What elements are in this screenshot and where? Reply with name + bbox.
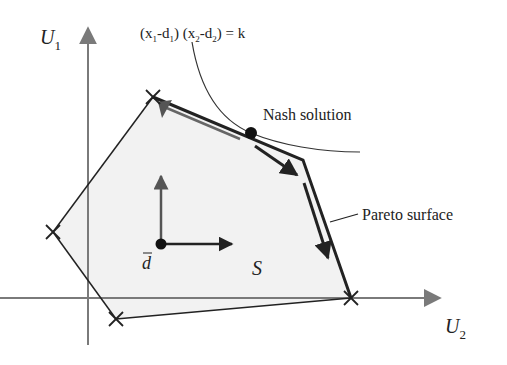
disagreement-point: [156, 239, 167, 250]
curve-equation: (x1-d1) (x2-d2) = k: [140, 25, 246, 44]
pareto-leader-line: [330, 214, 358, 222]
feasible-region: [53, 97, 351, 319]
y-axis-label: U1: [40, 26, 61, 53]
nash-bargaining-diagram: U1 U2 (x1-d1) (x2-d2) = k Nash solution …: [0, 0, 507, 365]
x-axis-label: U2: [445, 315, 466, 342]
pareto-surface-label: Pareto surface: [362, 206, 453, 223]
nash-solution-point: [245, 127, 257, 139]
disagreement-point-label: d: [142, 253, 152, 273]
region-s-label: S: [252, 257, 262, 279]
nash-solution-label: Nash solution: [263, 106, 351, 123]
